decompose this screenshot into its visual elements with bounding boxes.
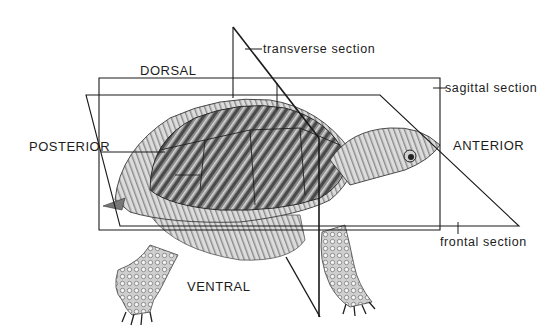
anterior-label: ANTERIOR [453, 139, 524, 152]
rear-leg [116, 245, 178, 315]
frontal-section-label: frontal section [440, 236, 527, 249]
ventral-label: VENTRAL [187, 280, 250, 293]
transverse-section-label: transverse section [263, 43, 375, 56]
posterior-label: POSTERIOR [29, 140, 110, 153]
front-leg [321, 225, 372, 307]
sagittal-section-label: sagittal section [445, 82, 537, 95]
turtle-illustration [103, 99, 440, 325]
anatomical-planes-diagram: DORSAL POSTERIOR ANTERIOR VENTRAL transv… [0, 0, 554, 334]
dorsal-label: DORSAL [140, 64, 196, 77]
